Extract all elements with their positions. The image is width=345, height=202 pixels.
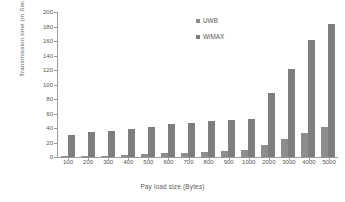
- x-tick-mark: [199, 145, 219, 149]
- bar-wimax: [288, 69, 295, 157]
- bar-uwb: [81, 156, 88, 157]
- y-tick-label: 200: [31, 9, 53, 15]
- bar-group: [118, 12, 138, 157]
- bar-group: [318, 12, 338, 157]
- x-tick-mark: [299, 145, 319, 149]
- y-tick-label: 180: [31, 24, 53, 30]
- x-tick-label: 3000: [279, 159, 299, 165]
- y-tick-mark: [54, 27, 57, 28]
- y-tick-label: 140: [31, 53, 53, 59]
- x-tick-mark: [319, 145, 339, 149]
- y-axis-title: Transmission time (m Sec): [18, 0, 25, 103]
- x-tick-mark: [58, 145, 78, 149]
- x-tick-label: 500: [138, 159, 158, 165]
- x-tick-label: 100: [58, 159, 78, 165]
- bar-group: [238, 12, 258, 157]
- x-tick-mark: [78, 145, 98, 149]
- bar-wimax: [168, 124, 175, 157]
- bar-wimax: [328, 24, 335, 157]
- y-tick-mark: [54, 99, 57, 100]
- bar-group: [138, 12, 158, 157]
- bar-group: [98, 12, 118, 157]
- x-tick-mark: [158, 145, 178, 149]
- y-tick-label: 80: [31, 96, 53, 102]
- x-tick-mark: [98, 145, 118, 149]
- x-tick-label: 400: [118, 159, 138, 165]
- bar-wimax: [148, 127, 155, 157]
- bar-uwb: [61, 156, 68, 157]
- x-tick-label: 700: [178, 159, 198, 165]
- bar-uwb: [181, 153, 188, 157]
- x-tick-label: 800: [199, 159, 219, 165]
- y-tick-mark: [54, 157, 57, 158]
- legend: UWBWiMAX: [196, 17, 224, 49]
- bar-group: [58, 12, 78, 157]
- bar-wimax: [188, 123, 195, 157]
- x-tick-mark: [138, 145, 158, 149]
- y-tick-mark: [54, 114, 57, 115]
- legend-swatch-icon: [196, 19, 200, 23]
- x-axis-tickmarks: [58, 145, 339, 149]
- y-tick-mark: [54, 143, 57, 144]
- x-tick-mark: [279, 145, 299, 149]
- bar-group: [298, 12, 318, 157]
- x-tick-label: 2000: [259, 159, 279, 165]
- bar-wimax: [248, 119, 255, 157]
- y-tick-label: 160: [31, 38, 53, 44]
- bar-uwb: [241, 150, 248, 157]
- x-tick-label: 200: [78, 159, 98, 165]
- y-tick-label: 20: [31, 140, 53, 146]
- y-tick-mark: [54, 41, 57, 42]
- x-tick-mark: [239, 145, 259, 149]
- x-tick-label: 300: [98, 159, 118, 165]
- y-tick-mark: [54, 12, 57, 13]
- bar-uwb: [221, 151, 228, 157]
- bar-group: [158, 12, 178, 157]
- x-tick-label: 900: [219, 159, 239, 165]
- legend-label: WiMAX: [203, 33, 224, 40]
- x-tick-label: 1000: [239, 159, 259, 165]
- y-tick-label: 0: [31, 154, 53, 160]
- bar-group: [78, 12, 98, 157]
- legend-item-uwb: UWB: [196, 17, 224, 24]
- x-tick-mark: [259, 145, 279, 149]
- y-tick-mark: [54, 85, 57, 86]
- y-tick-label: 40: [31, 125, 53, 131]
- bar-uwb: [321, 127, 328, 157]
- bar-uwb: [161, 153, 168, 157]
- legend-swatch-icon: [196, 35, 200, 39]
- x-tick-label: 5000: [319, 159, 339, 165]
- bar-wimax: [228, 120, 235, 157]
- bar-uwb: [121, 155, 128, 157]
- legend-label: UWB: [203, 17, 218, 24]
- bar-wimax: [108, 131, 115, 157]
- bar-uwb: [101, 156, 108, 157]
- legend-item-wimax: WiMAX: [196, 33, 224, 40]
- bar-chart: Transmission time (m Sec) 02040608010012…: [0, 0, 345, 202]
- x-tick-mark: [219, 145, 239, 149]
- x-tick-mark: [118, 145, 138, 149]
- bar-group: [278, 12, 298, 157]
- y-tick-label: 100: [31, 82, 53, 88]
- y-tick-label: 60: [31, 111, 53, 117]
- y-tick-mark: [54, 128, 57, 129]
- bar-uwb: [141, 154, 148, 157]
- bar-wimax: [128, 129, 135, 157]
- bar-group: [258, 12, 278, 157]
- bar-wimax: [208, 121, 215, 157]
- x-axis-ticks: 1002003004005006007008009001000200030004…: [58, 159, 339, 165]
- y-tick-mark: [54, 70, 57, 71]
- x-tick-label: 600: [158, 159, 178, 165]
- x-tick-mark: [178, 145, 198, 149]
- y-tick-label: 120: [31, 67, 53, 73]
- bar-group: [178, 12, 198, 157]
- x-tick-label: 4000: [299, 159, 319, 165]
- bar-wimax: [308, 40, 315, 157]
- y-tick-mark: [54, 56, 57, 57]
- bar-uwb: [201, 152, 208, 157]
- x-axis-title: Pay load size (Bytes): [0, 183, 345, 190]
- x-axis-line: [57, 157, 338, 158]
